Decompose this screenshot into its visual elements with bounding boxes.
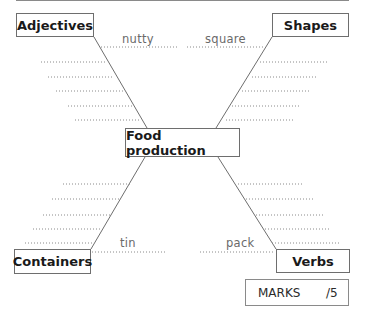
category-box-adjectives: Adjectives <box>16 13 94 37</box>
example-word-verbs: pack <box>226 236 255 250</box>
category-label: Verbs <box>292 254 334 269</box>
marks-label: MARKS <box>258 286 300 300</box>
branch-shapes <box>216 37 272 128</box>
marks-total: /5 <box>326 286 338 300</box>
example-word-containers: tin <box>120 236 136 250</box>
example-word-adjectives: nutty <box>122 32 154 46</box>
category-label: Adjectives <box>17 18 93 33</box>
center-label: Food production <box>126 128 239 158</box>
branch-containers <box>91 157 145 249</box>
category-label: Shapes <box>284 18 337 33</box>
category-box-shapes: Shapes <box>272 13 349 37</box>
branch-adjectives <box>94 37 147 128</box>
category-box-containers: Containers <box>14 249 91 274</box>
center-box-food-production: Food production <box>125 128 240 157</box>
example-word-shapes: square <box>205 32 246 46</box>
category-label: Containers <box>13 254 92 269</box>
marks-box: MARKS /5 <box>245 279 349 306</box>
category-box-verbs: Verbs <box>276 249 350 273</box>
